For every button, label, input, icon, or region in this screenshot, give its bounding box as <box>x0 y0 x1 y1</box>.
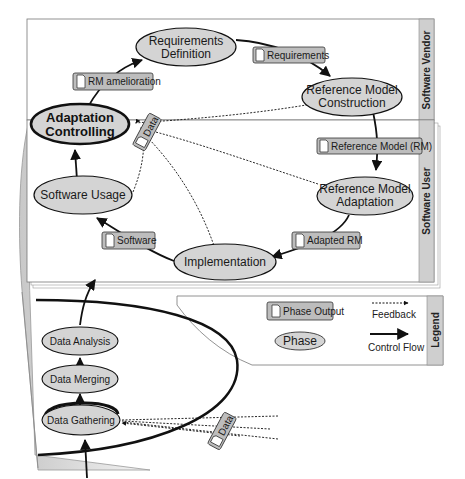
legend-phase-output: Phase Output <box>267 302 344 320</box>
svg-text:Control Flow: Control Flow <box>368 342 425 353</box>
svg-text:Implementation: Implementation <box>184 255 266 269</box>
svg-text:RM amelioration: RM amelioration <box>88 76 161 87</box>
svg-text:Adaptation: Adaptation <box>46 110 114 125</box>
output-software[interactable]: Software <box>102 232 157 249</box>
phase-implementation[interactable]: Implementation <box>174 244 276 280</box>
output-data-lower[interactable]: Data <box>207 412 236 450</box>
svg-text:Requirements: Requirements <box>267 50 329 61</box>
document-icon <box>77 75 85 88</box>
svg-text:Controlling: Controlling <box>45 124 114 139</box>
document-icon <box>296 234 304 247</box>
svg-text:Data Analysis: Data Analysis <box>50 336 111 347</box>
lane-label-vendor: Software Vendor <box>421 30 432 109</box>
svg-text:Reference Model (RM): Reference Model (RM) <box>331 141 432 152</box>
output-reference-model[interactable]: Reference Model (RM) <box>317 138 432 154</box>
phase-data-gathering[interactable]: Data Gathering <box>42 403 120 435</box>
phase-data-analysis[interactable]: Data Analysis <box>42 327 118 355</box>
phase-software-usage[interactable]: Software Usage <box>34 176 132 214</box>
svg-text:Construction: Construction <box>318 96 385 110</box>
svg-text:Phase: Phase <box>283 334 317 348</box>
phase-reference-model-construction[interactable]: Reference Model Construction <box>302 78 402 116</box>
svg-text:Data Gathering: Data Gathering <box>47 415 115 426</box>
svg-text:Requirements: Requirements <box>149 34 224 48</box>
document-icon <box>106 234 114 247</box>
svg-text:Phase Output: Phase Output <box>283 306 344 317</box>
phase-data-merging[interactable]: Data Merging <box>42 365 118 393</box>
svg-text:Data Merging: Data Merging <box>50 374 110 385</box>
phase-adaptation-controlling[interactable]: Adaptation Controlling <box>31 104 129 144</box>
svg-text:Software Usage: Software Usage <box>40 188 126 202</box>
output-rm-amelioration[interactable]: RM amelioration <box>73 73 161 90</box>
document-icon <box>256 49 264 61</box>
svg-text:Adaptation: Adaptation <box>336 195 393 209</box>
diagram-canvas: Software Vendor Software User Legend Pha… <box>0 0 465 479</box>
phase-requirements-definition[interactable]: Requirements Definition <box>136 28 236 66</box>
legend-panel: Legend Phase Output Phase Feedback Contr… <box>177 296 443 365</box>
data-feedback-lines <box>122 416 278 439</box>
svg-text:Software: Software <box>117 235 157 246</box>
output-requirements[interactable]: Requirements <box>253 47 329 63</box>
svg-text:Adapted RM: Adapted RM <box>307 235 363 246</box>
output-adapted-rm[interactable]: Adapted RM <box>292 232 363 249</box>
legend-phase: Phase <box>275 332 325 350</box>
svg-text:Reference Model: Reference Model <box>319 182 410 196</box>
document-icon <box>320 140 328 152</box>
phase-reference-model-adaptation[interactable]: Reference Model Adaptation <box>317 177 413 215</box>
svg-text:Reference Model: Reference Model <box>306 83 397 97</box>
lane-label-user: Software User <box>421 167 432 234</box>
lane-label-legend: Legend <box>430 312 441 348</box>
svg-text:Feedback: Feedback <box>372 309 417 320</box>
document-icon <box>272 305 280 317</box>
svg-text:Definition: Definition <box>161 47 211 61</box>
